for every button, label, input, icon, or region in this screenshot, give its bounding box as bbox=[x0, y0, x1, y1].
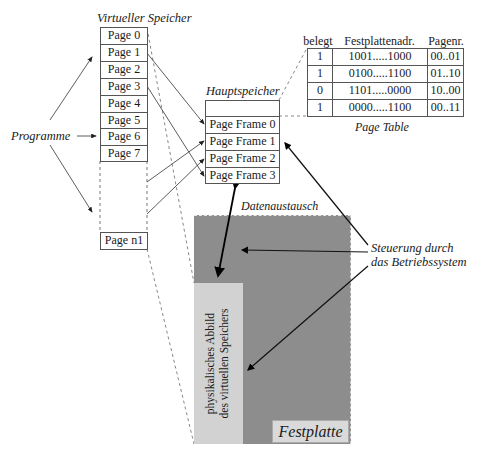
data-exchange-label: Datenaustausch bbox=[241, 199, 318, 214]
os-control-label: Steuerung durch das Betriebssystem bbox=[371, 241, 466, 269]
page-frame-3: Page Frame 3 bbox=[205, 167, 280, 184]
virtual-page-1: Page 1 bbox=[100, 44, 148, 62]
page-table-header-disk-address: Festplattenadr. bbox=[332, 34, 427, 49]
table-cell: 0000.....1100 bbox=[332, 99, 428, 117]
virtual-memory-title: Virtueller Speicher bbox=[97, 11, 192, 26]
main-memory-title: Hauptspeicher bbox=[206, 84, 280, 99]
virtual-page-4: Page 4 bbox=[100, 95, 148, 113]
main-memory-header-cell bbox=[205, 100, 280, 117]
table-cell: 0 bbox=[307, 82, 333, 100]
table-cell: 1 bbox=[307, 99, 333, 117]
table-cell: 0100.....1100 bbox=[332, 65, 428, 83]
virtual-page-7: Page 7 bbox=[100, 145, 148, 162]
table-cell: 01..10 bbox=[427, 65, 464, 83]
virtual-page-6: Page 6 bbox=[100, 128, 148, 146]
table-cell: 1 bbox=[307, 65, 333, 83]
programs-label: Programme bbox=[11, 129, 70, 144]
page-frame-1: Page Frame 1 bbox=[205, 133, 280, 151]
page-table-header-page-number: Pagenr. bbox=[425, 34, 467, 49]
table-cell: 1001.....1000 bbox=[332, 48, 428, 66]
page-frame-2: Page Frame 2 bbox=[205, 150, 280, 168]
table-cell: 10..00 bbox=[427, 82, 464, 100]
table-cell: 1101.....0000 bbox=[332, 82, 428, 100]
page-table-title: Page Table bbox=[355, 120, 409, 135]
virtual-page-n1: Page n1 bbox=[100, 232, 148, 250]
table-cell: 1 bbox=[307, 48, 333, 66]
table-cell: 00..11 bbox=[427, 99, 464, 117]
table-cell: 00..01 bbox=[427, 48, 464, 66]
virtual-page-2: Page 2 bbox=[100, 61, 148, 79]
virtual-page-0: Page 0 bbox=[100, 27, 148, 45]
os-control-line1: Steuerung durch bbox=[371, 241, 466, 255]
virtual-page-3: Page 3 bbox=[100, 78, 148, 96]
os-control-line2: das Betriebssystem bbox=[371, 255, 466, 269]
page-frame-0: Page Frame 0 bbox=[205, 116, 280, 134]
